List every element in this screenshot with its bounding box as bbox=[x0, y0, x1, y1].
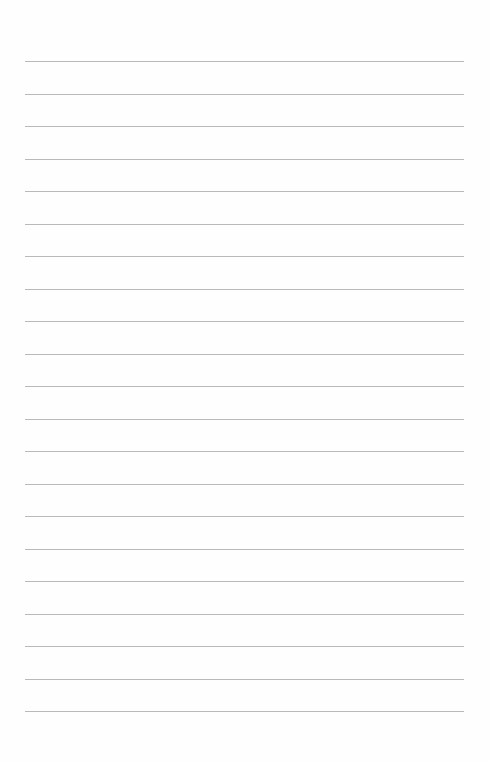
ruled-line bbox=[25, 354, 464, 355]
ruled-line bbox=[25, 126, 464, 127]
ruled-line bbox=[25, 484, 464, 485]
ruled-line bbox=[25, 386, 464, 387]
ruled-line bbox=[25, 549, 464, 550]
ruled-line bbox=[25, 159, 464, 160]
ruled-line bbox=[25, 419, 464, 420]
lined-paper-page bbox=[0, 0, 489, 762]
ruled-line bbox=[25, 61, 464, 62]
ruled-line bbox=[25, 679, 464, 680]
ruled-line bbox=[25, 581, 464, 582]
ruled-line bbox=[25, 224, 464, 225]
ruled-line bbox=[25, 289, 464, 290]
ruled-line bbox=[25, 451, 464, 452]
ruled-line bbox=[25, 516, 464, 517]
ruled-line bbox=[25, 321, 464, 322]
ruled-line bbox=[25, 646, 464, 647]
ruled-line bbox=[25, 256, 464, 257]
ruled-line bbox=[25, 614, 464, 615]
ruled-line bbox=[25, 94, 464, 95]
ruled-line bbox=[25, 191, 464, 192]
ruled-line bbox=[25, 711, 464, 712]
